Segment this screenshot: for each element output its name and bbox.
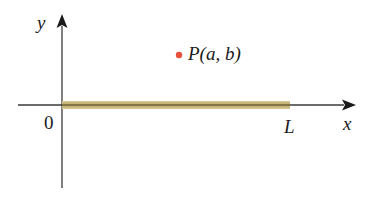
origin-label: 0: [44, 112, 54, 134]
y-axis-label: y: [37, 12, 45, 34]
y-axis-arrow-icon: [57, 14, 68, 28]
rod: [62, 101, 290, 109]
point-p-marker: [176, 52, 182, 58]
rod-end-label: L: [284, 116, 295, 138]
diagram-canvas: y P(a, b) 0 L x: [0, 0, 373, 198]
point-p-label: P(a, b): [188, 43, 241, 65]
x-axis-label: x: [343, 113, 351, 135]
coordinate-plane: [0, 0, 373, 198]
x-axis-arrow-icon: [342, 100, 356, 111]
